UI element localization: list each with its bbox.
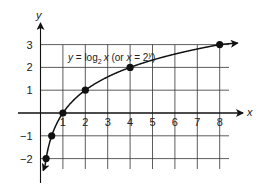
data-point	[216, 41, 223, 48]
x-tick-label: 5	[149, 116, 155, 128]
log-function-chart: 12345678−2−1123 y x y = log2x (or x = 2y…	[0, 0, 265, 192]
x-tick-label: 3	[105, 116, 111, 128]
y-tick-label: −1	[20, 130, 33, 142]
y-tick-label: 2	[26, 61, 32, 73]
y-tick-label: 1	[26, 84, 32, 96]
x-axis-label: x	[246, 106, 253, 118]
x-tick-label: 1	[60, 116, 66, 128]
x-tick-label: 8	[217, 116, 223, 128]
equation-annotation: y = log2x (or x = 2y)	[67, 51, 155, 65]
x-tick-label: 6	[172, 116, 178, 128]
data-point	[43, 155, 50, 162]
data-point	[127, 64, 134, 71]
x-tick-label: 2	[82, 116, 88, 128]
chart-svg: 12345678−2−1123 y x y = log2x (or x = 2y…	[0, 0, 265, 192]
y-tick-label: −2	[20, 153, 33, 165]
curve-arrow-down	[43, 166, 45, 171]
grid-lines	[41, 45, 230, 169]
y-axis-label: y	[35, 9, 43, 21]
data-point	[48, 132, 55, 139]
x-tick-label: 4	[127, 116, 133, 128]
x-tick-label: 7	[194, 116, 200, 128]
data-point	[82, 87, 89, 94]
data-point	[59, 109, 66, 116]
y-tick-label: 3	[26, 39, 32, 51]
